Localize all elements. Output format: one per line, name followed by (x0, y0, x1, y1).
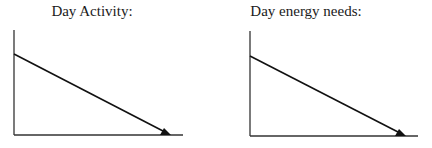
trend-line (250, 56, 398, 132)
day-energy-needs-plot (216, 0, 432, 148)
day-energy-needs-chart: Day energy needs: (216, 0, 432, 148)
trend-line (14, 54, 163, 131)
day-activity-plot (0, 0, 216, 148)
arrowhead-icon (160, 128, 171, 135)
arrowhead-icon (395, 129, 406, 136)
day-activity-chart: Day Activity: (0, 0, 216, 148)
